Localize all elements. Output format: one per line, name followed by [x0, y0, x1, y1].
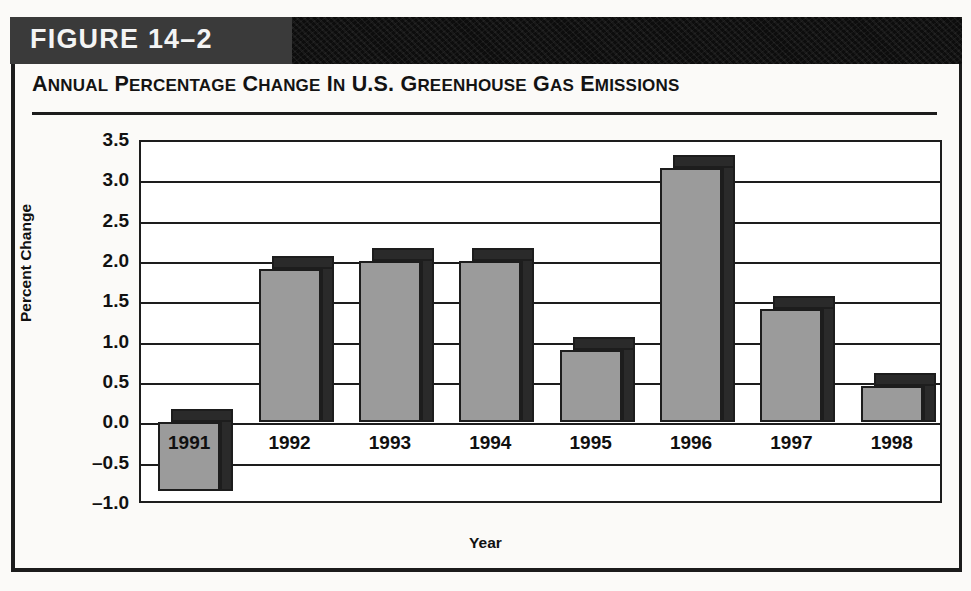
y-axis-tick-label: –1.0	[59, 492, 129, 514]
y-axis-tick-label: 2.0	[59, 250, 129, 272]
bar-side-face	[521, 248, 534, 422]
bar-1996	[660, 168, 722, 422]
x-axis-category-label-1994: 1994	[469, 432, 511, 454]
x-axis-category-label-1993: 1993	[369, 432, 411, 454]
bar-1993	[359, 261, 421, 422]
bar-1992	[259, 269, 321, 422]
y-axis-tick-label: 1.5	[59, 290, 129, 312]
bar-top-face	[673, 155, 735, 168]
gridline	[141, 181, 940, 183]
y-axis-tick-label: –0.5	[59, 452, 129, 474]
bar-side-face	[321, 256, 334, 422]
gridline	[141, 262, 940, 264]
bar-1994	[459, 261, 521, 422]
bar-front-face	[459, 261, 521, 422]
gridline	[141, 423, 940, 425]
x-axis-category-label-1997: 1997	[770, 432, 812, 454]
bar-side-face	[722, 155, 735, 422]
bar-front-face	[359, 261, 421, 422]
x-axis-category-label-1998: 1998	[871, 432, 913, 454]
y-axis-tick-label: 2.5	[59, 210, 129, 232]
bar-1997	[760, 309, 822, 422]
plot-wrapper: Percent Change 3.53.02.52.01.51.00.50.0–…	[0, 0, 971, 591]
x-axis-category-label-1991: 1991	[168, 432, 210, 454]
x-axis-category-label-1995: 1995	[570, 432, 612, 454]
y-axis-tick-label: 1.0	[59, 331, 129, 353]
bar-top-face	[773, 296, 835, 309]
x-axis-category-label-1992: 1992	[268, 432, 310, 454]
bar-front-face	[660, 168, 722, 422]
bar-1995	[560, 350, 622, 423]
figure-root: FIGURE 14–2 ANNUAL PERCENTAGE CHANGE IN …	[0, 0, 971, 591]
gridline	[141, 464, 940, 466]
x-axis-category-label-1996: 1996	[670, 432, 712, 454]
bar-top-face	[372, 248, 434, 261]
bar-front-face	[259, 269, 321, 422]
x-axis-title: Year	[0, 534, 971, 552]
bar-1998	[861, 386, 923, 422]
bar-front-face	[560, 350, 622, 423]
y-axis-tick-label: 0.0	[59, 411, 129, 433]
y-axis-tick-label: 3.0	[59, 169, 129, 191]
gridline	[141, 222, 940, 224]
bar-side-face	[822, 296, 835, 422]
bar-top-face	[171, 409, 233, 422]
bar-top-face	[874, 373, 936, 386]
y-axis-tick-label: 0.5	[59, 371, 129, 393]
y-axis-tick-label: 3.5	[59, 129, 129, 151]
bar-top-face	[272, 256, 334, 269]
bar-top-face	[472, 248, 534, 261]
bar-front-face	[760, 309, 822, 422]
bar-side-face	[421, 248, 434, 422]
bar-top-face	[573, 337, 635, 350]
y-axis-title: Percent Change	[17, 204, 35, 322]
bar-front-face	[861, 386, 923, 422]
